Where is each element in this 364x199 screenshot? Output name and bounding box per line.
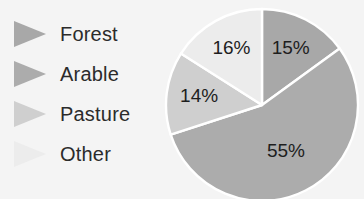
legend-label-pasture: Pasture [60,104,130,124]
legend-wedge-swatch-icon [12,19,48,49]
pie-chart-graphic: 15%55%14%16% [164,0,364,199]
legend-item-other[interactable]: Other [12,137,111,171]
chart-legend: Forest Arable Pasture [0,0,180,199]
pie-slice-label-pasture: 14% [180,85,218,106]
legend-wedge-swatch-icon [12,99,48,129]
pie-chart-figure: Forest Arable Pasture [0,0,364,199]
legend-label-arable: Arable [60,64,119,84]
legend-label-forest: Forest [60,24,118,44]
pie-slice-label-other: 16% [212,37,250,58]
wedge-shape-forest [14,21,46,47]
wedge-shape-other [14,141,46,167]
wedge-shape-arable [14,61,46,87]
legend-item-pasture[interactable]: Pasture [12,97,130,131]
legend-wedge-swatch-icon [12,59,48,89]
legend-item-forest[interactable]: Forest [12,17,118,51]
legend-wedge-swatch-icon [12,139,48,169]
legend-item-arable[interactable]: Arable [12,57,119,91]
legend-label-other: Other [60,144,111,164]
pie-slice-label-forest: 15% [272,37,310,58]
wedge-shape-pasture [14,101,46,127]
pie-slice-label-arable: 55% [267,140,305,161]
